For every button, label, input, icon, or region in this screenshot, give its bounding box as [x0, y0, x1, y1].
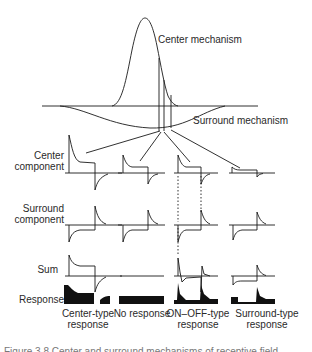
- surround-mechanism-label: Surround mechanism: [193, 115, 288, 126]
- fan-line-onoff: [164, 132, 190, 162]
- response-center-type: [64, 285, 110, 304]
- row-label-surround-component: Surround component: [15, 203, 64, 225]
- row-label-response: Response: [19, 294, 64, 305]
- column-label-on-off-type: ON–OFF-type response: [166, 308, 230, 330]
- column-label-surround-type: Surround-type response: [232, 308, 302, 330]
- center-mechanism-curve: [112, 18, 178, 106]
- row-label-center-component: Center component: [15, 150, 64, 172]
- fan-line-center: [86, 131, 160, 153]
- response-surround-type: [231, 287, 275, 304]
- column-surround-type: [229, 167, 275, 285]
- column-no-response: [118, 155, 165, 276]
- row-label-sum: Sum: [37, 264, 58, 275]
- column-center-type: [65, 135, 122, 292]
- response-on-off-type: [174, 283, 218, 304]
- receptive-field-figure: Center mechanism Surround mechanism Cent…: [0, 0, 312, 352]
- column-on-off-type: [174, 155, 218, 292]
- center-mechanism-label: Center mechanism: [158, 34, 242, 45]
- response-no-response: [119, 296, 164, 304]
- figure-caption-fragment: Figure 3.8 Center and surround mechanism…: [0, 347, 312, 352]
- column-label-no-response: No response: [112, 308, 172, 319]
